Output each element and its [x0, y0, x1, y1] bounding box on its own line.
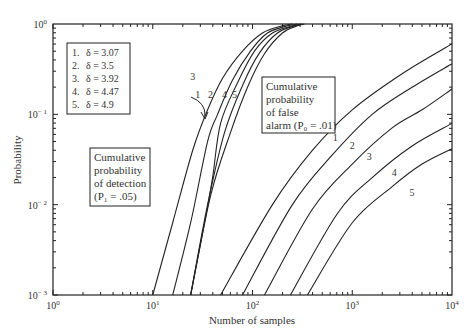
arrow-head-icon [201, 112, 208, 119]
tick-label: 10− 2 [28, 199, 48, 211]
curve-number-label: 2 [208, 89, 213, 100]
legend-item-number: 2. [72, 60, 80, 71]
legend-item-number: 3. [72, 73, 80, 84]
curve-number-label: 5 [232, 89, 237, 100]
annotation-line: probability [94, 164, 143, 176]
curve-line [290, 123, 452, 295]
curve-number-label: 5 [410, 187, 415, 198]
legend-item-label: δ = 3.92 [86, 73, 119, 84]
legend-item-number: 5. [72, 99, 80, 110]
legend: 1.δ = 3.072.δ = 3.53.δ = 3.924.δ = 4.475… [67, 43, 130, 114]
annotation-line: (P₁ = .05) [94, 190, 137, 203]
legend-item-number: 4. [72, 86, 80, 97]
annotation-line: of detection [94, 177, 147, 189]
tick-label: 10− 1 [28, 108, 48, 120]
curve-line [153, 24, 293, 295]
tick-label: 101 [146, 299, 160, 311]
annotation-line: alarm (P₀ = .01) [266, 119, 337, 132]
x-axis-label: Number of samples [209, 314, 295, 326]
tick-label: 103 [346, 299, 360, 311]
tick-label: 100 [46, 299, 60, 311]
legend-item-label: δ = 4.47 [86, 86, 119, 97]
annotation-line: of false [266, 106, 299, 118]
curve-number-label: 4 [392, 167, 397, 178]
chart: 10010110210310410010− 110− 210− 3 123451… [0, 0, 468, 335]
curve-number-label: 3 [190, 71, 195, 82]
curve-line [221, 44, 452, 295]
curve-number-label: 3 [367, 151, 372, 162]
legend-item-label: δ = 3.07 [86, 47, 119, 58]
curve-number-label: 2 [350, 140, 355, 151]
curve-line [173, 24, 298, 295]
legend-item-label: δ = 3.5 [86, 60, 114, 71]
curve-line [191, 24, 301, 295]
curve-number-label: 1 [333, 132, 338, 143]
curve-number-label: 1 [195, 89, 200, 100]
annotation-line: probability [266, 93, 315, 105]
curves [153, 24, 452, 295]
legend-item-number: 1. [72, 47, 80, 58]
tick-label: 100 [34, 18, 48, 30]
curve-line [191, 24, 305, 295]
tick-label: 10− 3 [28, 289, 48, 301]
annotation-line: Cumulative [266, 80, 317, 92]
y-axis-label: Probability [11, 135, 23, 184]
tick-label: 104 [445, 299, 459, 311]
curve-number-label: 4 [222, 89, 227, 100]
tick-label: 102 [246, 299, 260, 311]
annotation-line: Cumulative [94, 151, 145, 163]
false-alarm-annotation: Cumulativeprobabilityof falsealarm (P₀ =… [262, 77, 337, 133]
legend-item-label: δ = 4.9 [86, 99, 114, 110]
detection-annotation: Cumulativeprobabilityof detection(P₁ = .… [90, 148, 150, 206]
